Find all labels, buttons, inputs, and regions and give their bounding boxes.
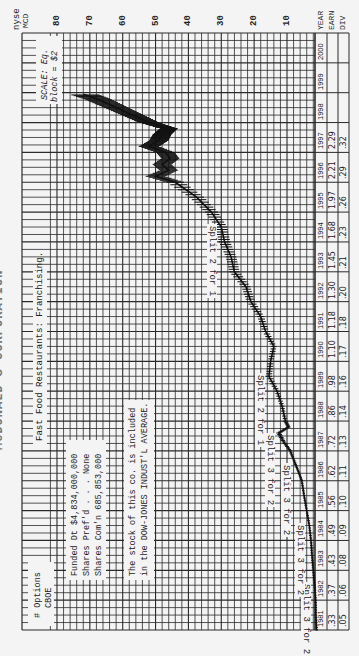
table-year: 1984 <box>316 521 325 538</box>
table-row-header: DIV <box>338 16 347 30</box>
table-year: 1985 <box>316 491 325 508</box>
price-tick-label: 50 <box>151 15 161 26</box>
scale-note-line2: block = $2 <box>50 51 60 102</box>
table-dividend: .21 <box>339 256 348 269</box>
table-year: 1982 <box>316 580 325 597</box>
table-year: 1987 <box>316 431 325 448</box>
table-earnings: 2.21 <box>328 161 337 179</box>
price-tick-label: 80 <box>52 15 62 26</box>
table-year: 1981 <box>316 610 325 627</box>
table-dividend: .16 <box>339 375 348 388</box>
table-dividend: .11 <box>339 465 348 478</box>
split-label: Split 2 for 1 <box>255 373 265 447</box>
data-table-lines <box>315 33 349 630</box>
table-earnings: 1.45 <box>328 251 337 269</box>
table-dividend: .20 <box>339 286 348 299</box>
table-earnings: .49 <box>328 525 337 538</box>
table-dividend: .23 <box>339 226 348 239</box>
split-label: Split 3 for 2 <box>281 463 291 537</box>
djia-note-line1: The stock of this co. is included <box>128 408 138 576</box>
table-earnings: .62 <box>328 465 337 478</box>
table-year: 1997 <box>316 133 325 150</box>
table-year: 1994 <box>316 222 325 239</box>
table-earnings: 1.10 <box>328 341 337 359</box>
split-label: Split 3 for 2 <box>265 433 275 507</box>
table-dividend: .18 <box>339 316 348 329</box>
table-dividend: .26 <box>339 196 348 209</box>
table-earnings: .56 <box>328 495 337 508</box>
table-dividend: .13 <box>339 435 348 448</box>
price-tick-label: 70 <box>85 15 95 26</box>
table-earnings: .86 <box>328 405 337 418</box>
price-tick-label: 30 <box>216 15 226 26</box>
industry-label: Fast Food Restaurants: Franchising. <box>35 252 45 441</box>
table-earnings: .33 <box>328 614 337 627</box>
table-earnings: .98 <box>328 375 337 388</box>
table-year: 1983 <box>316 551 325 568</box>
price-tick-label: 60 <box>118 15 128 26</box>
shares-common: Shares Com'n 685,853,000 <box>94 454 104 576</box>
scale-note-line1: SCALE: Eq. <box>40 49 50 100</box>
split-label: Split 3 for 2 <box>295 523 305 597</box>
table-year: 1990 <box>316 342 325 359</box>
table-earnings: 1.68 <box>328 221 337 239</box>
table-year: 1996 <box>316 163 325 180</box>
table-dividend: .32 <box>339 137 348 150</box>
split-label: Split 2 for 1 <box>207 224 217 298</box>
table-year: 1991 <box>316 312 325 329</box>
funded-debt: Funded Dt $4,834,000,000 <box>70 454 80 576</box>
table-earnings: .72 <box>328 435 337 448</box>
table-year: 1989 <box>316 372 325 389</box>
table-year: 1986 <box>316 461 325 478</box>
shares-preferred: Shares Pref'd . . . None <box>82 454 92 576</box>
table-year: 1993 <box>316 252 325 269</box>
table-dividend: .14 <box>339 405 348 418</box>
table-dividend: .17 <box>339 346 348 359</box>
table-earnings: .43 <box>328 555 337 568</box>
options-line1: # Options <box>33 572 43 618</box>
table-dividend: .29 <box>339 167 348 180</box>
table-year: 1998 <box>316 103 325 120</box>
table-dividend: .06 <box>339 584 348 597</box>
table-earnings: 1.18 <box>328 311 337 329</box>
table-row-header: EARN <box>327 11 336 30</box>
table-earnings: 1.97 <box>328 191 337 209</box>
table-year: 1992 <box>316 282 325 299</box>
table-earnings: 2.29 <box>328 132 337 150</box>
price-tick-label: 40 <box>183 15 193 26</box>
table-year: 1999 <box>316 73 325 90</box>
price-tick-label: 10 <box>282 15 292 26</box>
djia-note-line2: in the DOW-JONES INDUST'L AVERAGE. <box>140 403 150 576</box>
table-year: 1988 <box>316 401 325 418</box>
table-dividend: .05 <box>339 614 348 627</box>
options-line2: CBOE <box>44 588 54 608</box>
table-year: 2000 <box>316 43 325 60</box>
table-dividend: .08 <box>339 555 348 568</box>
table-earnings: 1.30 <box>328 281 337 299</box>
company-title: McDONALD'S CORPORATION <box>0 270 6 450</box>
table-dividend: .09 <box>339 525 348 538</box>
price-tick-label: 20 <box>249 15 259 26</box>
table-earnings: .37 <box>328 584 337 597</box>
table-year: 1995 <box>316 192 325 209</box>
table-row-header: YEAR <box>316 11 325 30</box>
table-dividend: .10 <box>339 495 348 508</box>
ticker-label: MCD <box>21 14 30 28</box>
